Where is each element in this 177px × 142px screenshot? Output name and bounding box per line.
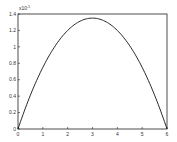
y-tick-label: 0.6 bbox=[9, 76, 16, 82]
x-tick-label: 1 bbox=[41, 131, 44, 137]
y-tick-label: 0 bbox=[13, 126, 16, 132]
x-tick-label: 3 bbox=[91, 131, 94, 137]
y-tick-label: 0.8 bbox=[9, 60, 16, 66]
data-line bbox=[18, 18, 167, 129]
y-tick-label: 0.4 bbox=[9, 93, 16, 99]
x-tick-label: 0 bbox=[17, 131, 20, 137]
line-chart: 012345600.20.40.60.811.21.4 x10-5 bbox=[0, 0, 177, 142]
y-tick-label: 1.4 bbox=[9, 11, 16, 17]
x-tick-label: 2 bbox=[66, 131, 69, 137]
x-tick-label: 4 bbox=[116, 131, 119, 137]
chart-svg: 012345600.20.40.60.811.21.4 x10-5 bbox=[0, 0, 177, 142]
x-tick-label: 5 bbox=[141, 131, 144, 137]
y-tick-label: 1 bbox=[13, 44, 16, 50]
y-tick-label: 0.2 bbox=[9, 109, 16, 115]
axis-ticks: 012345600.20.40.60.811.21.4 bbox=[9, 11, 169, 137]
x-tick-label: 6 bbox=[166, 131, 169, 137]
y-multiplier-label: x10-5 bbox=[19, 5, 30, 11]
y-tick-label: 1.2 bbox=[9, 27, 16, 33]
